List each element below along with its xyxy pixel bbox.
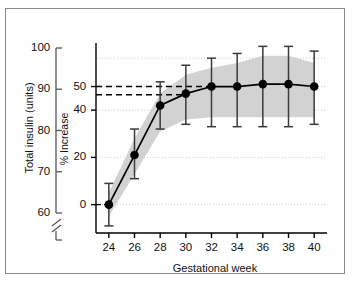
left-axis-tick-80: 80 xyxy=(24,124,50,136)
x-axis-tick-28: 28 xyxy=(148,241,172,253)
inner-axis-tick-0: 0 xyxy=(68,198,86,210)
left-axis-tick-60: 60 xyxy=(24,206,50,218)
x-axis-tick-26: 26 xyxy=(123,241,147,253)
inner-axis-tick-40: 40 xyxy=(68,103,86,115)
x-axis-tick-32: 32 xyxy=(200,241,224,253)
x-axis-tick-24: 24 xyxy=(97,241,121,253)
left-axis-tick-100: 100 xyxy=(24,41,50,53)
x-axis-tick-30: 30 xyxy=(174,241,198,253)
figure-container: Total insulin (units) % Increase Gestati… xyxy=(0,0,352,283)
inner-axis-tick-50: 50 xyxy=(68,80,86,92)
x-axis-tick-40: 40 xyxy=(302,241,326,253)
x-axis-tick-34: 34 xyxy=(225,241,249,253)
x-axis-title: Gestational week xyxy=(100,262,330,274)
left-axis-tick-90: 90 xyxy=(24,82,50,94)
inner-axis-tick-20: 20 xyxy=(68,150,86,162)
x-axis-tick-36: 36 xyxy=(251,241,275,253)
left-axis-tick-70: 70 xyxy=(24,165,50,177)
x-axis-tick-38: 38 xyxy=(277,241,301,253)
